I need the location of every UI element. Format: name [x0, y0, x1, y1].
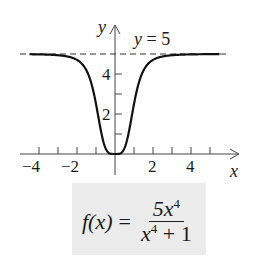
x-tick-label: −2: [61, 157, 79, 176]
function-graph: y x y = 5 −4 −2 2 4 2 4: [0, 0, 253, 180]
x-tick-label: 2: [148, 157, 157, 176]
formula-box: f(x) = 5x4 x4 + 1: [72, 183, 206, 255]
formula-numerator: 5x4: [149, 197, 184, 222]
y-axis-label: y: [96, 17, 106, 37]
y-tick-label: 4: [102, 65, 111, 84]
x-tick-label: −4: [22, 157, 41, 176]
y-ticks: [115, 74, 122, 134]
formula-equals: =: [119, 209, 131, 235]
function-curve: [30, 54, 220, 154]
x-tick-label: 4: [186, 157, 195, 176]
formula-fraction: 5x4 x4 + 1: [139, 197, 194, 246]
formula-denominator: x4 + 1: [139, 222, 194, 246]
y-tick-label: 2: [102, 105, 111, 124]
function-formula: f(x) = 5x4 x4 + 1: [82, 197, 194, 246]
x-axis-label: x: [229, 161, 238, 180]
asymptote-label: y = 5: [132, 29, 170, 49]
formula-lhs: f(x): [82, 209, 113, 235]
